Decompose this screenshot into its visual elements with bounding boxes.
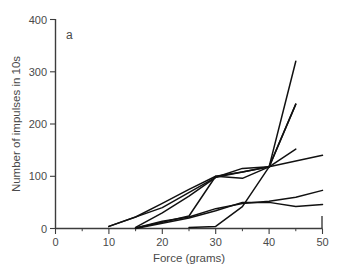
y-tick-label-300: 300 [29,66,47,78]
y-tick-labels: 400 300 200 100 0 [29,14,47,235]
y-tick-label-200: 200 [29,118,47,130]
x-tick-label-30: 30 [210,236,222,248]
line-chart: 400 300 200 100 0 0 10 20 30 40 50 Force… [0,0,339,272]
y-tick-label-100: 100 [29,170,47,182]
panel-label: a [66,28,73,42]
series-line-unit-4 [109,155,323,226]
x-tick-label-20: 20 [156,236,168,248]
x-axis-ticks [56,229,323,235]
x-tick-label-10: 10 [103,236,115,248]
y-tick-label-0: 0 [41,223,47,235]
x-axis-title: Force (grams) [153,252,225,264]
figure-panel-a: 400 300 200 100 0 0 10 20 30 40 50 Force… [0,0,339,272]
x-tick-label-50: 50 [316,236,328,248]
y-tick-label-400: 400 [29,14,47,26]
x-tick-label-40: 40 [263,236,275,248]
x-tick-label-0: 0 [52,236,58,248]
y-axis-ticks [50,20,55,229]
y-axis-title: Number of impulses in 10s [10,56,22,192]
series-group [109,61,323,228]
x-tick-labels: 0 10 20 30 40 50 [52,236,328,248]
